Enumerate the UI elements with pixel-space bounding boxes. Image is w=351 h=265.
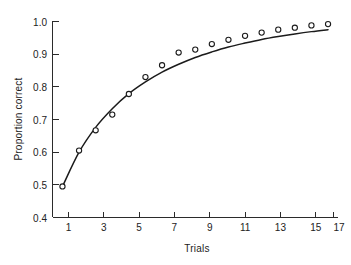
x-tick-label: 7 <box>172 222 178 233</box>
y-tick-label: 0.5 <box>33 180 47 191</box>
data-point <box>193 47 198 52</box>
data-point <box>292 25 297 30</box>
x-tick-label: 5 <box>136 222 142 233</box>
x-axis-title: Trials <box>184 243 209 254</box>
y-tick-label: 0.8 <box>33 82 47 93</box>
data-point <box>159 63 164 68</box>
data-point <box>93 128 98 133</box>
data-point <box>126 91 131 96</box>
data-point <box>242 33 247 38</box>
y-tick-label: 0.4 <box>33 213 47 224</box>
data-point <box>76 148 81 153</box>
x-tick-label: 15 <box>310 222 322 233</box>
data-point <box>325 22 330 27</box>
y-tick-label: 1.0 <box>33 17 47 28</box>
data-point <box>143 74 148 79</box>
x-tick-label: 13 <box>275 222 287 233</box>
data-point <box>209 41 214 46</box>
y-tick-label: 0.7 <box>33 115 47 126</box>
learning-curve-chart: 1.0 0.9 0.8 0.7 0.6 0.5 0.4 1 3 5 7 9 11… <box>0 0 351 265</box>
y-tick-label: 0.9 <box>33 49 47 60</box>
x-tick-label: 3 <box>101 222 107 233</box>
x-tick-label: 11 <box>240 222 251 233</box>
y-axis-title: Proportion correct <box>13 77 24 160</box>
data-point <box>110 112 115 117</box>
data-point <box>226 37 231 42</box>
x-tick-label: 17 <box>333 222 345 233</box>
data-point <box>276 27 281 32</box>
data-point <box>176 50 181 55</box>
data-point <box>259 30 264 35</box>
y-tick-label: 0.6 <box>33 147 47 158</box>
data-point <box>309 23 314 28</box>
x-tick-label: 9 <box>207 222 213 233</box>
x-tick-label: 1 <box>66 222 72 233</box>
data-point <box>60 184 65 189</box>
